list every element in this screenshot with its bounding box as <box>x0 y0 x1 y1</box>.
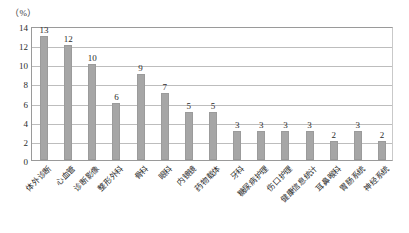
bar-slot: 12 <box>56 28 80 160</box>
x-axis-tick-label: 眼科 <box>156 164 174 182</box>
bar-slot: 6 <box>104 28 128 160</box>
bar-slot: 5 <box>177 28 201 160</box>
y-axis-tick-label: 10 <box>19 62 28 71</box>
bar-value-label: 7 <box>162 83 167 92</box>
y-axis-unit-label: （%） <box>10 6 37 19</box>
bar-value-label: 3 <box>283 121 288 130</box>
bar-value-label: 13 <box>40 26 49 35</box>
bar-slot: 7 <box>153 28 177 160</box>
bar <box>88 64 96 160</box>
y-axis-tick-label: 0 <box>24 158 29 167</box>
bar-value-label: 3 <box>307 121 312 130</box>
bar <box>257 131 265 160</box>
bar-slot: 3 <box>225 28 249 160</box>
bar-slot: 13 <box>32 28 56 160</box>
bar-value-label: 9 <box>138 64 143 73</box>
bar-value-label: 3 <box>235 121 240 130</box>
bar-value-label: 3 <box>356 121 361 130</box>
y-axis-tick-label: 2 <box>24 138 29 147</box>
y-axis-tick-label: 12 <box>19 43 28 52</box>
y-axis-tick-label: 6 <box>24 100 29 109</box>
bar-value-label: 6 <box>114 93 119 102</box>
bar-value-label: 12 <box>64 35 73 44</box>
bar-value-label: 2 <box>380 131 385 140</box>
bar-slot: 10 <box>80 28 104 160</box>
bar-value-label: 2 <box>331 131 336 140</box>
x-axis-tick-label: 体外诊断 <box>24 164 53 193</box>
bar-slot: 3 <box>249 28 273 160</box>
bar-slot: 2 <box>370 28 394 160</box>
bar-slot: 9 <box>129 28 153 160</box>
bar-value-label: 5 <box>187 102 192 111</box>
bar <box>40 36 48 160</box>
y-axis-tick-label: 14 <box>19 24 28 33</box>
bar-slot: 5 <box>201 28 225 160</box>
y-axis-tick-label: 4 <box>24 119 29 128</box>
bar-value-label: 5 <box>211 102 216 111</box>
bar <box>161 93 169 160</box>
x-axis-tick-label: 牙科 <box>229 164 247 182</box>
bar-value-label: 3 <box>259 121 264 130</box>
bar-slot: 3 <box>297 28 321 160</box>
bar <box>185 112 193 160</box>
bar-chart: （%） 02468101214 131210697553333232 体外诊断心… <box>0 0 409 233</box>
x-axis-tick-label: 骨科 <box>132 164 150 182</box>
y-axis-tick-label: 8 <box>24 81 29 90</box>
bar-value-label: 10 <box>88 54 97 63</box>
